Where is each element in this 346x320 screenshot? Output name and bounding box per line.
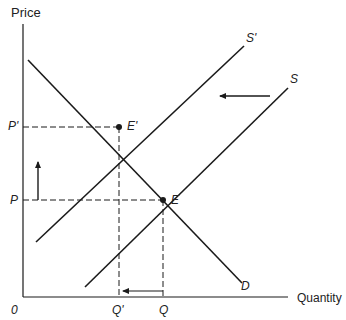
x-axis-label: Quantity: [297, 292, 342, 304]
equilibrium-label-e-prime: E': [127, 120, 137, 132]
equilibrium-label-e: E: [171, 194, 179, 206]
quantity-label-q-prime: Q': [112, 304, 124, 316]
y-axis-label: Price: [11, 6, 41, 19]
curve-label-d: D: [241, 280, 250, 292]
supply-curve-s-prime: [36, 46, 244, 242]
supply-curve-s: [85, 88, 288, 287]
demand-curve-d: [28, 60, 242, 283]
origin-label: 0: [11, 304, 18, 316]
quantity-label-q: Q: [159, 304, 168, 316]
price-label-p-prime: P': [8, 120, 18, 132]
equilibrium-point-e-prime: [116, 124, 122, 130]
curve-label-s: S: [290, 73, 298, 85]
equilibrium-point-e: [160, 197, 166, 203]
diagram-canvas: [0, 0, 346, 320]
curve-label-s-prime: S': [246, 32, 256, 44]
price-label-p: P: [10, 194, 18, 206]
